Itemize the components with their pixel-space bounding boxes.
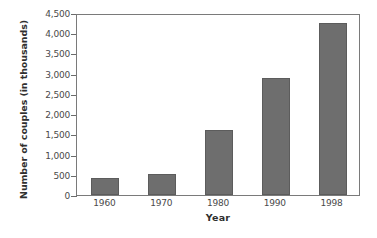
- y-tick-label: 1,000: [26, 151, 70, 160]
- y-tick-label: 4,500: [26, 10, 70, 19]
- x-tick-label: 1980: [194, 198, 242, 209]
- x-tick-label: 1990: [251, 198, 299, 209]
- bar-1998: [319, 23, 347, 195]
- plot-frame: [76, 14, 360, 196]
- x-axis-tick-labels: 19601970198019901998: [76, 198, 360, 212]
- bar-1960: [91, 178, 119, 195]
- x-tick-label: 1960: [80, 198, 128, 209]
- bar-1990: [262, 78, 290, 195]
- y-tick-label: 3,000: [26, 70, 70, 79]
- y-tick-mark: [71, 196, 77, 197]
- bar-chart: Number of couples (in thousands) 05001,0…: [0, 0, 377, 238]
- y-axis-tick-labels: 05001,0001,5002,0002,5003,0003,5004,0004…: [26, 0, 70, 238]
- x-tick-label: 1998: [308, 198, 356, 209]
- x-axis-title: Year: [76, 212, 360, 223]
- plot-area: [77, 15, 359, 195]
- bar-1980: [205, 130, 233, 195]
- y-tick-label: 2,000: [26, 111, 70, 120]
- bar-1970: [148, 174, 176, 195]
- x-tick-label: 1970: [137, 198, 185, 209]
- y-tick-label: 0: [26, 192, 70, 201]
- y-tick-label: 1,500: [26, 131, 70, 140]
- y-tick-label: 3,500: [26, 50, 70, 59]
- y-tick-label: 2,500: [26, 90, 70, 99]
- y-tick-label: 500: [26, 171, 70, 180]
- y-tick-label: 4,000: [26, 30, 70, 39]
